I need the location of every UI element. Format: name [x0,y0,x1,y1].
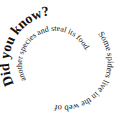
fact-text-inner: another species and steal its food. [15,24,92,83]
spiral-text-graphic: Did you know? Some spiders live in the w… [0,0,130,117]
